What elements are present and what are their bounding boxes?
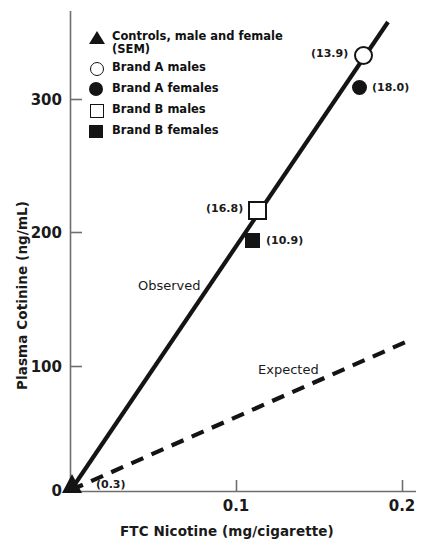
legend-label-brand-a-females: Brand A females <box>112 82 219 95</box>
sem-label-controls: (0.3) <box>96 478 126 491</box>
data-point-brand-a-females <box>352 80 367 95</box>
legend-item-brand-a-males: Brand A males <box>88 61 206 76</box>
chart-figure: 300 200 100 0 0.1 0.2 Plasma Cotinine (n… <box>0 0 429 554</box>
data-point-brand-b-females <box>245 233 260 248</box>
x-axis-title: FTC Nicotine (mg/cigarette) <box>120 523 334 539</box>
open-circle-icon <box>88 61 106 76</box>
expected-annotation: Expected <box>258 362 319 377</box>
y-axis-title: Plasma Cotinine (ng/mL) <box>14 201 30 390</box>
sem-label-brand-b-males: (16.8) <box>206 202 243 215</box>
y-tick-label-300: 300 <box>18 91 62 109</box>
legend-item-brand-b-females: Brand B females <box>88 124 219 139</box>
x-tick-label-0.2: 0.2 <box>377 497 427 515</box>
legend-label-brand-b-females: Brand B females <box>112 124 219 137</box>
sem-label-brand-a-males: (13.9) <box>311 47 348 60</box>
legend-item-brand-b-males: Brand B males <box>88 103 206 118</box>
legend-label-brand-b-males: Brand B males <box>112 103 206 116</box>
x-tick-label-0.1: 0.1 <box>211 497 261 515</box>
data-point-brand-b-males <box>248 201 267 220</box>
filled-circle-icon <box>88 82 106 97</box>
legend-label-brand-a-males: Brand A males <box>112 61 206 74</box>
y-tick-label-0: 0 <box>18 482 62 500</box>
data-point-brand-a-males <box>354 46 373 65</box>
sem-label-brand-b-females: (10.9) <box>266 234 303 247</box>
filled-triangle-icon <box>88 30 106 45</box>
legend-item-controls: Controls, male and female (SEM) <box>88 30 283 56</box>
filled-square-icon <box>88 124 106 139</box>
sem-label-brand-a-females: (18.0) <box>372 81 409 94</box>
open-square-icon <box>88 103 106 118</box>
observed-annotation: Observed <box>138 278 201 293</box>
legend-item-brand-a-females: Brand A females <box>88 82 219 97</box>
legend-label-controls-sem: (SEM) <box>112 42 150 56</box>
